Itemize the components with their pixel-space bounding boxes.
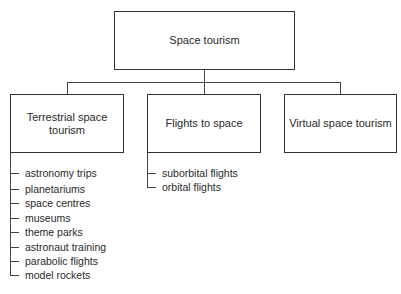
node-flights-to-space: Flights to space [147,94,261,153]
list-tick [147,187,156,188]
list-tick [10,173,19,174]
list-item: parabolic flights [25,255,98,267]
list-tick [147,173,156,174]
root-node-space-tourism: Space tourism [114,11,295,70]
list-item: astronomy trips [25,167,97,179]
list-tick [10,247,19,248]
list-tick [10,189,19,190]
connector-to-flights [204,82,205,94]
node-label: Virtual space tourism [289,117,392,130]
list-item: space centres [25,197,90,209]
connector-to-terrestrial [67,82,68,94]
node-label: Terrestrial space tourism [22,111,112,137]
flights-list-spine [147,153,148,188]
list-item: astronaut training [25,241,106,253]
list-tick [10,275,19,276]
list-tick [10,232,19,233]
node-label: Flights to space [165,117,242,130]
list-tick [10,261,19,262]
list-item: suborbital flights [162,167,238,179]
terrestrial-list-spine [10,153,11,276]
connector-to-virtual [340,82,341,94]
list-item: model rockets [25,269,90,281]
list-item: orbital flights [162,181,221,193]
list-item: planetariums [25,183,85,195]
list-item: theme parks [25,226,83,238]
list-tick [10,203,19,204]
root-node-label: Space tourism [169,34,239,47]
list-item: museums [25,212,71,224]
root-stem-connector [204,70,205,82]
list-tick [10,218,19,219]
node-terrestrial-space-tourism: Terrestrial space tourism [10,94,124,153]
node-virtual-space-tourism: Virtual space tourism [284,94,397,153]
